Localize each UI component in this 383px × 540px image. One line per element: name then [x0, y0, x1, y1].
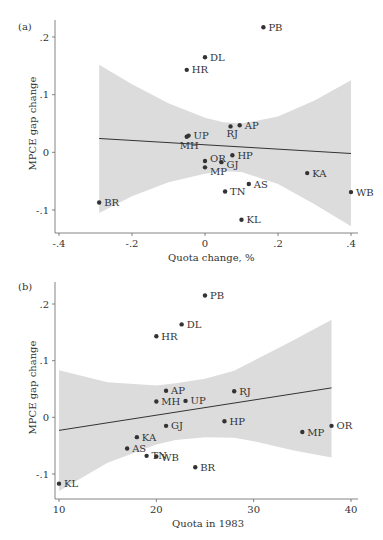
data-point-wb	[349, 190, 353, 194]
x-tick-label: -.2	[126, 238, 139, 249]
x-tick-label: -.4	[53, 238, 66, 249]
x-tick-label: 20	[150, 504, 163, 515]
data-point-mp	[300, 430, 304, 434]
data-point-ka	[135, 435, 139, 439]
point-label-wb: WB	[356, 187, 374, 198]
point-label-gj: GJ	[226, 159, 238, 170]
point-label-gj: GJ	[171, 420, 183, 431]
data-point-ka	[305, 171, 309, 175]
data-point-hp	[222, 419, 226, 423]
point-label-or: OR	[337, 420, 353, 431]
point-label-br: BR	[104, 197, 119, 208]
data-point-mh	[185, 135, 189, 139]
point-label-hr: HR	[161, 331, 178, 342]
scatter-plot-a: -.10.1.2-.4-.20.2.4PBDLHRRJAPUPMHHPORGJM…	[0, 0, 383, 270]
y-axis-label-b: MPCE gap change	[27, 338, 38, 438]
x-tick-label: 0	[202, 238, 208, 249]
data-point-hp	[230, 153, 234, 157]
data-point-br	[97, 200, 101, 204]
point-label-as: AS	[131, 443, 146, 454]
x-tick-label: 30	[247, 504, 260, 515]
point-label-hp: HP	[237, 150, 253, 161]
y-tick-label: .2	[39, 299, 49, 310]
point-label-pb: PB	[268, 22, 282, 33]
point-label-kl: KL	[64, 478, 78, 489]
data-point-as	[125, 446, 129, 450]
x-tick-label: 40	[345, 504, 358, 515]
point-label-mp: MP	[307, 427, 324, 438]
x-tick-label: .2	[273, 238, 283, 249]
data-point-ap	[237, 123, 241, 127]
data-point-or	[329, 424, 333, 428]
point-label-dl: DL	[187, 319, 202, 330]
data-point-pb	[261, 25, 265, 29]
panel-label-a: (a)	[18, 21, 32, 32]
point-label-ka: KA	[142, 432, 157, 443]
data-point-rj	[232, 389, 236, 393]
point-label-ka: KA	[312, 168, 327, 179]
point-label-wb: WB	[161, 452, 179, 463]
point-label-hp: HP	[229, 416, 245, 427]
data-point-gj	[164, 424, 168, 428]
point-label-mh: MH	[161, 396, 180, 407]
y-tick-label: -.1	[36, 205, 49, 216]
data-point-tn	[223, 189, 227, 193]
point-label-hr: HR	[192, 64, 209, 75]
x-axis-label-b: Quota in 1983	[172, 518, 244, 529]
point-label-pb: PB	[210, 290, 224, 301]
y-tick-label: .2	[39, 32, 49, 43]
point-label-dl: DL	[210, 52, 225, 63]
y-tick-label: .1	[39, 89, 49, 100]
point-label-br: BR	[200, 462, 215, 473]
y-axis-label-a: MPCE gap change	[27, 74, 38, 174]
x-axis-label-a: Quota change, %	[168, 252, 254, 263]
y-tick-label: 0	[43, 147, 49, 158]
confidence-band	[99, 65, 351, 226]
data-point-kl	[57, 481, 61, 485]
data-point-mh	[154, 399, 158, 403]
scatter-plot-b: -.10.1.210203040PBDLHRAPMHUPRJGJHPKAASTN…	[0, 270, 383, 540]
point-label-tn: TN	[230, 186, 246, 197]
point-label-as: AS	[253, 179, 268, 190]
y-tick-label: 0	[43, 412, 49, 423]
data-point-br	[193, 465, 197, 469]
data-point-hr	[185, 68, 189, 72]
point-label-kl: KL	[247, 214, 261, 225]
data-point-pb	[203, 293, 207, 297]
data-point-hr	[154, 334, 158, 338]
y-tick-label: -.1	[36, 469, 49, 480]
data-point-ap	[164, 389, 168, 393]
data-point-dl	[179, 322, 183, 326]
data-point-kl	[239, 218, 243, 222]
point-label-ap: AP	[170, 385, 185, 396]
point-label-mp: MP	[210, 166, 227, 177]
panel-label-b: (b)	[18, 281, 32, 292]
point-label-or: OR	[210, 153, 226, 164]
data-point-tn	[144, 454, 148, 458]
point-label-mh: MH	[180, 140, 199, 151]
data-point-wb	[154, 454, 158, 458]
y-tick-label: .1	[39, 355, 49, 366]
point-label-up: UP	[191, 395, 206, 406]
data-point-as	[247, 182, 251, 186]
point-label-ap: AP	[244, 120, 259, 131]
data-point-mp	[203, 165, 207, 169]
data-point-up	[183, 399, 187, 403]
point-label-rj: RJ	[239, 386, 251, 397]
data-point-gj	[219, 160, 223, 164]
x-tick-label: .4	[346, 238, 356, 249]
data-point-dl	[203, 55, 207, 59]
point-label-rj: RJ	[227, 128, 239, 139]
panel-b: -.10.1.210203040PBDLHRAPMHUPRJGJHPKAASTN…	[0, 270, 383, 540]
x-tick-label: 10	[53, 504, 66, 515]
data-point-or	[203, 159, 207, 163]
panel-a: -.10.1.2-.4-.20.2.4PBDLHRRJAPUPMHHPORGJM…	[0, 0, 383, 270]
